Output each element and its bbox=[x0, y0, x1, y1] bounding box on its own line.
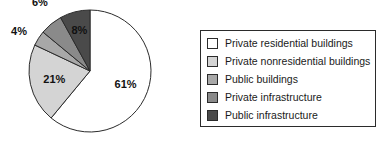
legend-swatch-public-buildings bbox=[207, 74, 218, 85]
pie-slice-label: 4% bbox=[11, 25, 27, 37]
legend-label-private-nonresidential-buildings: Private nonresidential buildings bbox=[225, 56, 370, 67]
legend-item-public-buildings[interactable]: Public buildings bbox=[207, 71, 375, 88]
pie-slice-label: 21% bbox=[43, 73, 65, 85]
pie-slice-label: 61% bbox=[115, 78, 137, 90]
pie-chart-figure: 61%21%4%6%8% Private residential buildin… bbox=[0, 0, 379, 145]
legend-label-public-buildings: Public buildings bbox=[225, 74, 298, 85]
legend-swatch-private-residential-buildings bbox=[207, 38, 218, 49]
legend-swatch-private-infrastructure bbox=[207, 92, 218, 103]
pie-slice-label: 8% bbox=[71, 24, 87, 36]
chart-legend: Private residential buildings Private no… bbox=[200, 30, 376, 127]
legend-item-public-infrastructure[interactable]: Public infrastructure bbox=[207, 107, 375, 124]
legend-item-private-residential-buildings[interactable]: Private residential buildings bbox=[207, 35, 375, 52]
legend-item-private-nonresidential-buildings[interactable]: Private nonresidential buildings bbox=[207, 53, 375, 70]
legend-swatch-public-infrastructure bbox=[207, 110, 218, 121]
legend-label-private-infrastructure: Private infrastructure bbox=[225, 92, 322, 103]
legend-label-public-infrastructure: Public infrastructure bbox=[225, 110, 318, 121]
pie-slice-label: 6% bbox=[32, 0, 48, 8]
pie-slice-group bbox=[29, 10, 151, 132]
legend-item-private-infrastructure[interactable]: Private infrastructure bbox=[207, 89, 375, 106]
legend-label-private-residential-buildings: Private residential buildings bbox=[225, 38, 353, 49]
legend-swatch-private-nonresidential-buildings bbox=[207, 56, 218, 67]
